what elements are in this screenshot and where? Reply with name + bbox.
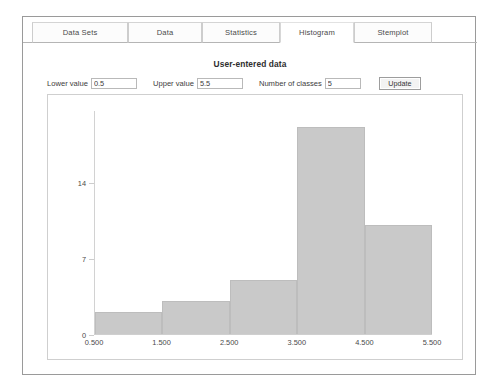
tab-data-label: Data [157,28,174,37]
tab-data-sets-label: Data Sets [63,28,98,37]
upper-value-label: Upper value [153,79,194,88]
x-tick-label: 5.500 [423,338,442,347]
number-of-classes-input[interactable] [325,78,361,89]
x-axis-line [94,334,432,335]
histogram-controls: Lower value Upper value Number of classe… [47,76,421,90]
tab-data[interactable]: Data [128,22,202,43]
tab-stemplot[interactable]: Stemplot [354,22,432,43]
histogram-bar [162,301,229,334]
x-tick-label: 2.500 [220,338,239,347]
update-button[interactable]: Update [379,77,421,90]
histogram-bars [95,111,432,334]
tab-bar-leading-spacer [23,22,32,43]
histogram-bar [297,127,364,334]
x-tick-label: 3.500 [288,338,307,347]
y-tick-mark [89,335,94,336]
tab-stemplot-label: Stemplot [377,28,408,37]
tab-bar: Data Sets Data Statistics Histogram Stem… [23,22,477,43]
tab-histogram[interactable]: Histogram [280,22,354,43]
application-frame: Data Sets Data Statistics Histogram Stem… [22,16,476,375]
tab-histogram-label: Histogram [299,28,335,37]
histogram-bar [365,225,432,334]
plot-area: 0714 0.5001.5002.5003.5004.5005.500 [94,111,432,335]
tab-statistics[interactable]: Statistics [202,22,280,43]
histogram-bar [230,280,297,334]
x-tick-label: 0.500 [85,338,104,347]
histogram-chart-panel: 0714 0.5001.5002.5003.5004.5005.500 [47,94,463,360]
y-tick-label: 7 [82,254,86,263]
y-tick-label: 14 [78,178,86,187]
x-tick-label: 4.500 [355,338,374,347]
tab-bar-trailing-spacer [432,22,477,43]
histogram-bar [95,312,162,334]
number-of-classes-label: Number of classes [259,79,322,88]
y-tick-mark [89,259,94,260]
lower-value-input[interactable] [91,78,137,89]
lower-value-label: Lower value [47,79,88,88]
page-title: User-entered data [23,59,477,69]
upper-value-input[interactable] [197,78,243,89]
y-tick-mark [89,183,94,184]
tab-data-sets[interactable]: Data Sets [32,22,128,43]
tab-statistics-label: Statistics [225,28,257,37]
x-tick-label: 1.500 [152,338,171,347]
